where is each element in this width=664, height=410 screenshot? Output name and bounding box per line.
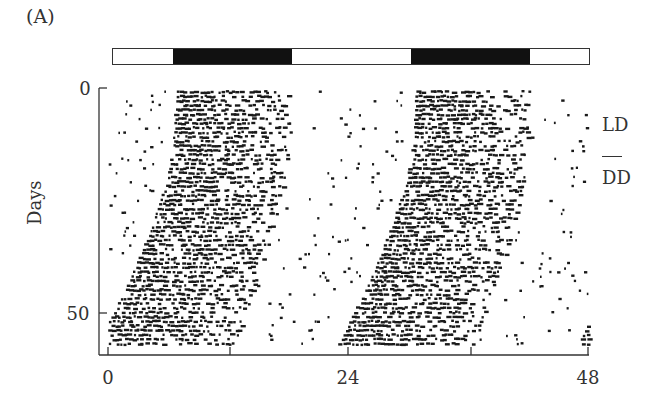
condition-label-dd: DD	[602, 167, 631, 188]
x-tick-label-48: 48	[577, 367, 600, 388]
y-tick-label-0: 0	[79, 78, 90, 99]
y-tick-label-50: 50	[67, 303, 90, 324]
x-tick-label-24: 24	[337, 367, 360, 388]
y-axis-label: Days	[24, 180, 45, 225]
x-tick-label-0: 0	[102, 367, 113, 388]
activity-records	[108, 90, 593, 346]
condition-label-ld: LD	[602, 114, 628, 135]
condition-separator	[602, 156, 622, 157]
actogram-plot: 0 50 0 24 48	[0, 0, 664, 410]
